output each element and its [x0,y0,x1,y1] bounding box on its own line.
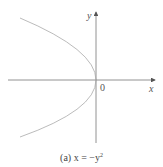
parabola-curve [20,18,96,137]
y-axis-label: y [87,11,91,21]
origin-label: 0 [100,83,105,93]
parabola-chart [0,0,163,167]
figure-caption: (a) x = −y2 [0,152,163,163]
x-axis-label: x [149,84,153,94]
